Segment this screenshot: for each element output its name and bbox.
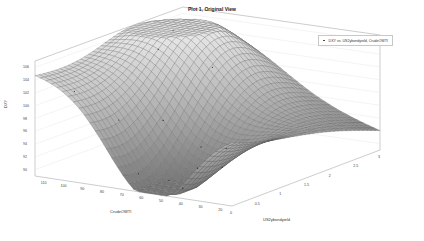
y-tick: 70: [120, 193, 124, 197]
z-tick: 90: [23, 168, 27, 172]
y-tick: 80: [100, 190, 104, 194]
legend-marker-icon: [323, 40, 325, 42]
z-tick: 96: [23, 129, 27, 133]
annotation-z: z: [200, 144, 202, 149]
z-tick: 94: [23, 142, 27, 146]
z-tick: 98: [23, 117, 27, 121]
y-tick: 30: [198, 205, 202, 209]
z-tick: 104: [23, 78, 29, 82]
x-tick: 1: [279, 192, 281, 196]
x-tick: 2.5: [353, 164, 358, 168]
x-tick: 3: [378, 155, 380, 159]
y-axis-label: CrudeOWTI: [110, 209, 131, 214]
z-tick: 92: [23, 155, 27, 159]
legend: DXY vs. US2ybondyield, CrudeOWTI: [318, 35, 393, 46]
x-tick: 2: [329, 174, 331, 178]
y-tick: 40: [179, 202, 183, 206]
y-tick: 110: [41, 181, 47, 185]
x-tick: 0.5: [255, 202, 260, 206]
y-tick: 50: [159, 199, 163, 203]
legend-label: DXY vs. US2ybondyield, CrudeOWTI: [329, 39, 388, 43]
y-tick: 90: [80, 187, 84, 191]
z-tick: 106: [23, 65, 29, 69]
z-axis-label: DXY: [3, 100, 8, 108]
y-tick: 20: [218, 208, 222, 212]
y-tick: 60: [139, 196, 143, 200]
z-tick: 100: [23, 104, 29, 108]
figure: z Plot 1, Original View DXY vs. US2ybond…: [0, 0, 424, 241]
z-tick: 102: [23, 91, 29, 95]
x-tick: 1.5: [304, 183, 309, 187]
plot-title: Plot 1, Original View: [0, 6, 424, 12]
x-axis-label: US2ybondyield: [263, 217, 290, 222]
x-tick: 0: [230, 211, 232, 215]
y-tick: 100: [61, 184, 67, 188]
